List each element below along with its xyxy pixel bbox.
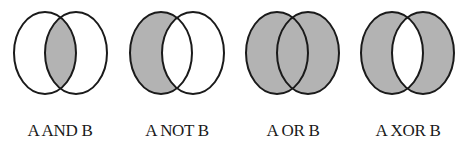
label-or: A OR B: [267, 121, 320, 141]
label-xor: A XOR B: [376, 121, 441, 141]
venn-and: [14, 12, 107, 94]
venn-not: [130, 12, 224, 94]
venn-xor: [361, 12, 454, 94]
venn-or: [246, 12, 339, 94]
label-not: A NOT B: [145, 121, 209, 141]
label-and: A AND B: [28, 121, 93, 141]
venn-diagrams: [0, 0, 464, 110]
